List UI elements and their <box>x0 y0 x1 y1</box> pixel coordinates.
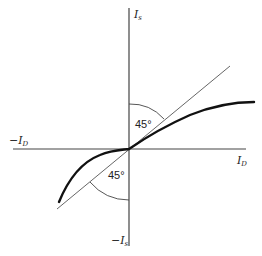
x-axis-negative-label: −ID <box>9 135 28 148</box>
label-subscript: D <box>241 160 247 168</box>
y-axis-negative-label: −Is <box>111 235 128 248</box>
label-prefix: − <box>111 234 120 247</box>
reference-line-45deg <box>57 66 230 209</box>
upper-angle-label: 45° <box>135 119 152 130</box>
label-prefix: − <box>9 134 18 147</box>
y-axis-positive-label: Is <box>134 9 142 22</box>
transfer-characteristic-diagram: Is −ID ID −Is 45° 45° <box>0 0 262 256</box>
characteristic-curve <box>59 102 254 202</box>
label-subscript: D <box>23 140 29 148</box>
label-subscript: s <box>125 240 129 248</box>
lower-angle-arc <box>90 182 129 200</box>
label-subscript: s <box>138 14 142 22</box>
diagram-canvas <box>0 0 262 256</box>
x-axis-positive-label: ID <box>237 155 247 168</box>
upper-angle-arc <box>129 104 164 119</box>
lower-angle-label: 45° <box>108 170 125 181</box>
